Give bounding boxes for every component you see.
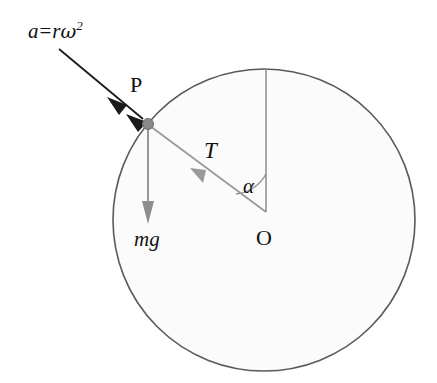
label-angle-alpha: α (243, 176, 254, 197)
label-acceleration-expression: a=rω2 (28, 19, 83, 42)
point-p-marker (143, 119, 154, 130)
acceleration-arrowhead-rear (107, 97, 127, 115)
physics-diagram-figure: P O T α mg a=rω2 (0, 0, 437, 383)
label-center-o: O (256, 227, 272, 249)
disc-circle (113, 69, 415, 371)
accel-omega: ω (61, 20, 77, 43)
label-weight-mg: mg (134, 229, 160, 250)
label-point-p: P (130, 74, 142, 96)
accel-radius: r (52, 19, 60, 43)
accel-equals: = (39, 19, 53, 43)
accel-exponent: 2 (76, 18, 83, 33)
diagram-canvas (0, 0, 437, 383)
accel-variable: a (28, 19, 39, 43)
label-tension-t: T (204, 139, 217, 162)
